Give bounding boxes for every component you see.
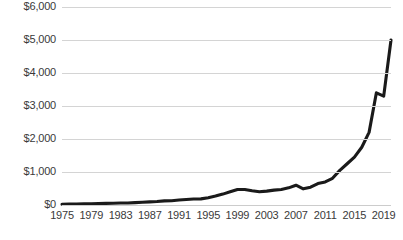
y-axis-tick-label: $6,000	[0, 1, 56, 12]
x-axis-tick-label: 2019	[372, 209, 396, 221]
series-path	[62, 40, 391, 204]
gridline	[62, 7, 391, 8]
gridline	[62, 139, 391, 140]
x-axis: 1975197919831987199119951999200320072011…	[0, 209, 403, 229]
y-axis: $6,000$5,000$4,000$3,000$2,000$1,000$0	[0, 0, 56, 212]
x-axis-tick-label: 2007	[284, 209, 308, 221]
x-axis-tick-label: 1999	[226, 209, 250, 221]
line-chart: $6,000$5,000$4,000$3,000$2,000$1,000$0 1…	[0, 0, 403, 240]
gridline	[62, 40, 391, 41]
x-axis-tick-label: 1991	[167, 209, 191, 221]
x-axis-tick-label: 1995	[196, 209, 220, 221]
x-axis-tick-label: 2015	[343, 209, 367, 221]
y-axis-tick-label: $3,000	[0, 100, 56, 111]
y-axis-tick-label: $1,000	[0, 166, 56, 177]
y-axis-tick-label: $2,000	[0, 133, 56, 144]
plot-area	[62, 7, 391, 205]
x-axis-tick-label: 1987	[138, 209, 162, 221]
y-axis-tick-label: $5,000	[0, 34, 56, 45]
x-axis-tick-label: 2003	[255, 209, 279, 221]
gridline	[62, 106, 391, 107]
gridline	[62, 205, 391, 206]
gridline	[62, 172, 391, 173]
x-axis-tick-label: 1983	[109, 209, 133, 221]
gridline	[62, 73, 391, 74]
y-axis-tick-label: $4,000	[0, 67, 56, 78]
x-axis-tick-label: 1979	[79, 209, 103, 221]
x-axis-tick-label: 2011	[314, 209, 337, 221]
x-axis-tick-label: 1975	[50, 209, 74, 221]
